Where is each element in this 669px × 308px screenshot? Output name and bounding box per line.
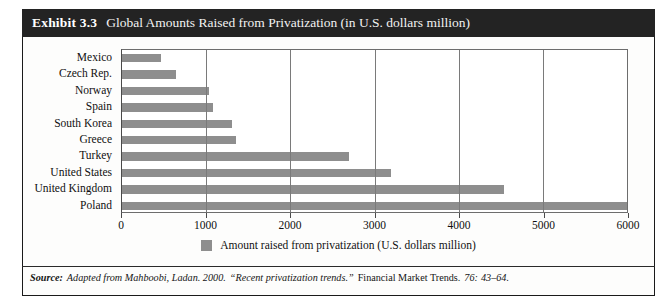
- bar-south-korea: [122, 120, 232, 129]
- axis-tick-label: 0: [118, 219, 124, 231]
- category-label: South Korea: [54, 115, 112, 131]
- exhibit-number: Exhibit 3.3: [32, 15, 97, 31]
- legend-label: Amount raised from privatization (U.S. d…: [220, 239, 476, 251]
- axis-tick-label: 6000: [617, 219, 640, 231]
- chart-area: MexicoCzech Rep.NorwaySpainSouth KoreaGr…: [22, 37, 655, 265]
- source-prefix: Source:: [30, 272, 63, 283]
- chart-legend: Amount raised from privatization (U.S. d…: [22, 239, 655, 251]
- axis-tick: [121, 213, 122, 218]
- axis-tick-label: 2000: [279, 219, 302, 231]
- bar-spain: [122, 103, 213, 112]
- category-label: Spain: [86, 98, 112, 114]
- value-axis: 0100020003000400050006000: [121, 213, 628, 239]
- category-axis-labels: MexicoCzech Rep.NorwaySpainSouth KoreaGr…: [22, 49, 118, 213]
- axis-tick: [544, 213, 545, 218]
- category-label: Norway: [75, 82, 112, 98]
- category-label: Czech Rep.: [59, 65, 112, 81]
- bar-turkey: [122, 152, 349, 161]
- category-label: United States: [50, 164, 112, 180]
- source-journal: Financial Market Trends.: [358, 272, 461, 283]
- category-label: Mexico: [77, 49, 112, 65]
- axis-tick-label: 5000: [532, 219, 555, 231]
- gridline: [206, 50, 207, 212]
- bar-united-states: [122, 169, 391, 178]
- exhibit-title: Global Amounts Raised from Privatization…: [106, 15, 470, 31]
- category-label: Poland: [80, 197, 112, 213]
- bar-mexico: [122, 54, 161, 63]
- category-label: United Kingdom: [34, 180, 112, 196]
- gridline: [459, 50, 460, 212]
- legend-swatch-icon: [201, 240, 212, 251]
- axis-tick-label: 1000: [194, 219, 217, 231]
- axis-tick-label: 4000: [448, 219, 471, 231]
- axis-tick: [206, 213, 207, 218]
- gridline: [290, 50, 291, 212]
- source-volume: 76:: [464, 272, 478, 283]
- axis-tick: [375, 213, 376, 218]
- bar-norway: [122, 87, 209, 96]
- category-label: Greece: [79, 131, 112, 147]
- exhibit-figure: Exhibit 3.3 Global Amounts Raised from P…: [0, 0, 669, 308]
- gridline: [375, 50, 376, 212]
- axis-tick-label: 3000: [363, 219, 386, 231]
- gridline: [543, 50, 544, 212]
- category-label: Turkey: [79, 147, 112, 163]
- source-pages: 43–64.: [481, 272, 509, 283]
- axis-tick: [628, 213, 629, 218]
- source-note: Source:Adapted from Mahboobi, Ladan. 200…: [30, 272, 650, 283]
- exhibit-title-bar: Exhibit 3.3 Global Amounts Raised from P…: [22, 9, 655, 37]
- bar-czech-rep: [122, 70, 176, 79]
- source-authors: Adapted from Mahboobi, Ladan. 2000.: [67, 272, 226, 283]
- axis-tick: [459, 213, 460, 218]
- source-divider: [22, 266, 655, 267]
- axis-tick: [290, 213, 291, 218]
- bar-greece: [122, 136, 236, 145]
- bar-united-kingdom: [122, 185, 504, 194]
- source-article: “Recent privatization trends.”: [230, 272, 354, 283]
- plot-box: [121, 49, 628, 213]
